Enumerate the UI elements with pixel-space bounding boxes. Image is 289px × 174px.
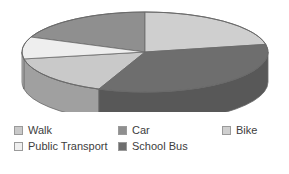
legend-item-public-transport[interactable]: Public Transport: [14, 140, 118, 152]
legend-swatch-car: [118, 126, 127, 135]
legend-item-walk[interactable]: Walk: [14, 124, 118, 136]
legend-item-school-bus[interactable]: School Bus: [118, 140, 188, 152]
legend-swatch-bike: [222, 126, 231, 135]
legend-label-school-bus: School Bus: [132, 140, 188, 152]
legend-swatch-public-transport: [14, 142, 23, 151]
legend-label-bike: Bike: [236, 124, 257, 136]
legend-row: Walk Car Bike: [14, 124, 276, 136]
legend-item-bike[interactable]: Bike: [222, 124, 257, 136]
legend-label-public-transport: Public Transport: [28, 140, 107, 152]
pie-chart-svg: [0, 0, 289, 112]
chart-legend: Walk Car Bike Public Transport School Bu…: [14, 124, 276, 152]
legend-item-car[interactable]: Car: [118, 124, 222, 136]
pie-chart-figure: Walk Car Bike Public Transport School Bu…: [0, 0, 289, 174]
legend-swatch-school-bus: [118, 142, 127, 151]
legend-swatch-walk: [14, 126, 23, 135]
legend-row: Public Transport School Bus: [14, 140, 276, 152]
chart-plot-area: [0, 0, 289, 112]
legend-label-car: Car: [132, 124, 150, 136]
legend-label-walk: Walk: [28, 124, 52, 136]
